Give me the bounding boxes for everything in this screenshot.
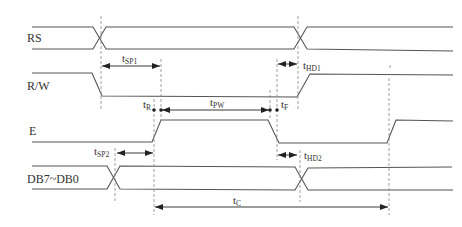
signal-label-e: E <box>29 124 36 138</box>
tsp2-label: tSP2 <box>94 145 109 159</box>
tsp1-marker: tSP1 <box>102 52 160 66</box>
timing-diagram: RS R/W E DB7~DB0 tSP1 tHD1 <box>0 0 462 227</box>
tc-marker: tC <box>155 194 388 208</box>
e-waveform <box>32 120 453 143</box>
tr-label: tR <box>143 98 151 112</box>
tpw-label: tPW <box>210 96 225 110</box>
tr-tpw-tf-markers: tR tPW tF <box>143 96 288 112</box>
thd1-label: tHD1 <box>303 59 321 73</box>
tf-label: tF <box>281 98 288 112</box>
signal-label-rw: R/W <box>27 79 50 93</box>
tc-label: tC <box>233 194 241 208</box>
reference-lines <box>101 16 390 215</box>
thd2-label: tHD2 <box>304 149 322 163</box>
rw-waveform <box>32 73 453 97</box>
signal-label-db: DB7~DB0 <box>27 172 79 186</box>
tsp1-label: tSP1 <box>122 52 137 66</box>
signal-label-rs: RS <box>27 31 42 45</box>
rs-waveform <box>32 27 453 51</box>
thd1-marker: tHD1 <box>278 59 321 73</box>
tsp2-marker: tSP2 <box>94 145 153 159</box>
db-waveform <box>32 166 453 190</box>
